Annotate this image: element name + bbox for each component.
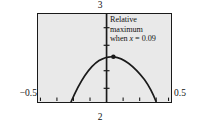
graph-figure: 3 −0.5 0.5 2 — [0, 0, 200, 123]
x-axis-ticks — [40, 98, 168, 101]
window-ymax-label: 3 — [0, 0, 200, 11]
plot-canvas — [38, 14, 171, 102]
window-xmax-label: 0.5 — [174, 88, 186, 99]
window-ymin-label: 2 — [0, 112, 200, 123]
relative-maximum-dot — [111, 54, 116, 58]
calculator-plot-window: Relative maximum when x = 0.09 — [37, 13, 172, 103]
function-curve — [71, 57, 156, 102]
window-xmin-label: −0.5 — [1, 88, 37, 99]
